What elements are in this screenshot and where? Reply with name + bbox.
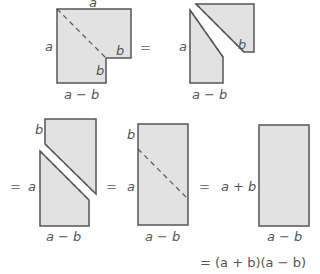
equals-sign: =	[140, 41, 151, 54]
equals-sign: =	[199, 180, 210, 193]
final-rectangle	[259, 125, 309, 226]
label-left-a-plus-b: a + b	[221, 180, 256, 193]
equals-sign: =	[10, 180, 21, 193]
label-bottom: a − b	[145, 230, 180, 243]
result-expression: = (a + b)(a − b)	[200, 256, 306, 269]
label-left-a: a	[28, 180, 36, 193]
label-bottom: a − b	[64, 88, 99, 101]
equals-sign: =	[106, 180, 117, 193]
label-left-a: a	[127, 180, 135, 193]
label-top-b: b	[35, 123, 43, 136]
label-inner-b-right: b	[116, 44, 124, 57]
label-bottom: a − b	[46, 230, 81, 243]
label-top-b: b	[127, 128, 135, 141]
label-bottom: a − b	[192, 88, 227, 101]
label-left-a: a	[45, 40, 53, 53]
label-bottom: a − b	[267, 230, 302, 243]
label-inner-b-bottom: b	[96, 64, 104, 77]
label-top-a: a	[89, 0, 97, 9]
label-inner-b: b	[238, 38, 246, 51]
label-left-a: a	[179, 40, 187, 53]
joined-rectangle	[138, 124, 188, 225]
